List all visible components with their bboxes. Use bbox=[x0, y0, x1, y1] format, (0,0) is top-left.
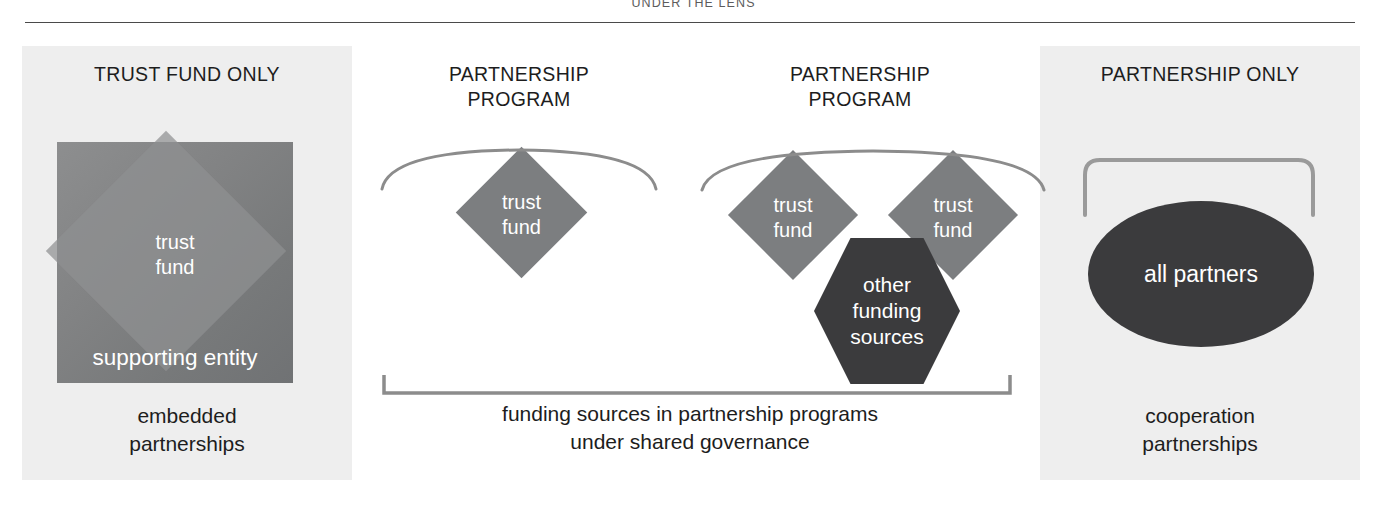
panel-title-trust-fund-only: TRUST FUND ONLY bbox=[22, 62, 352, 87]
ellipse-all-partners: all partners bbox=[1088, 201, 1314, 347]
panel-caption-embedded-partnerships: embedded partnerships bbox=[22, 402, 352, 458]
diamond-trust-fund-single-label: trust fund bbox=[465, 190, 578, 240]
title-line1: PARTNERSHIP bbox=[690, 62, 1030, 87]
caption-line2: partnerships bbox=[1040, 430, 1360, 458]
caption-line1: cooperation bbox=[1040, 402, 1360, 430]
hex-line1: other bbox=[814, 272, 960, 298]
panel-partnership-only: PARTNERSHIP ONLY all partners cooperatio… bbox=[1040, 46, 1360, 480]
square-trust-fund-line1: trust bbox=[57, 230, 293, 255]
diamond-right-line1: trust bbox=[897, 193, 1009, 218]
hexagon-label: other funding sources bbox=[814, 272, 960, 350]
shared-caption-line2: under shared governance bbox=[360, 428, 1020, 456]
header-divider-rule bbox=[25, 22, 1355, 23]
diamond-single-line2: fund bbox=[465, 215, 578, 240]
ellipse-all-partners-label: all partners bbox=[1088, 261, 1314, 288]
square-trust-fund-label: trust fund bbox=[57, 230, 293, 280]
title-line2: PROGRAM bbox=[360, 87, 678, 112]
page-header-title: UNDER THE LENS bbox=[0, 0, 1387, 10]
shared-caption-line1: funding sources in partnership programs bbox=[360, 400, 1020, 428]
hex-line2: funding bbox=[814, 298, 960, 324]
panel-caption-cooperation-partnerships: cooperation partnerships bbox=[1040, 402, 1360, 458]
hex-line3: sources bbox=[814, 324, 960, 350]
diamond-single-line1: trust bbox=[465, 190, 578, 215]
diamond-trust-fund-right-label: trust fund bbox=[897, 193, 1009, 243]
title-line2: PROGRAM bbox=[690, 87, 1030, 112]
diamond-left-line2: fund bbox=[737, 218, 849, 243]
square-trust-fund-line2: fund bbox=[57, 255, 293, 280]
panel-title-partnership-program-single: PARTNERSHIP PROGRAM bbox=[360, 62, 678, 112]
diagram-page: UNDER THE LENS TRUST FUND ONLY trust fun… bbox=[0, 0, 1387, 517]
diamond-trust-fund-left-label: trust fund bbox=[737, 193, 849, 243]
caption-line2: partnerships bbox=[22, 430, 352, 458]
panel-trust-fund-only: TRUST FUND ONLY trust fund supporting en… bbox=[22, 46, 352, 480]
supporting-entity-label: supporting entity bbox=[57, 345, 293, 371]
panel-title-partnership-only: PARTNERSHIP ONLY bbox=[1040, 62, 1360, 87]
title-line1: PARTNERSHIP bbox=[360, 62, 678, 87]
supporting-entity-square: trust fund supporting entity bbox=[57, 142, 293, 383]
caption-line1: embedded bbox=[22, 402, 352, 430]
panel-title-partnership-program-multi: PARTNERSHIP PROGRAM bbox=[690, 62, 1030, 112]
shared-bracket-caption: funding sources in partnership programs … bbox=[360, 400, 1020, 456]
diamond-left-line1: trust bbox=[737, 193, 849, 218]
